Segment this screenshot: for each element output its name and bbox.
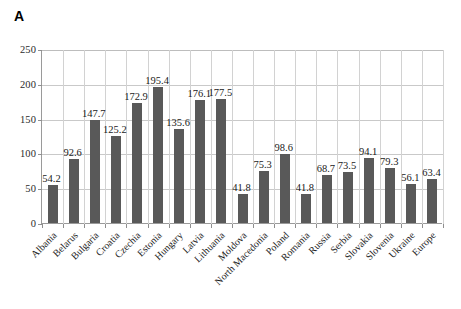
bar-value-label: 172.9 (119, 91, 153, 102)
gridline-horizontal (42, 50, 443, 51)
x-tick-mark (126, 224, 127, 228)
y-tick-mark (38, 189, 42, 190)
bar-value-label: 79.3 (372, 156, 406, 167)
gridline-horizontal (42, 120, 443, 121)
bar-value-label: 63.4 (414, 167, 448, 178)
bar (238, 194, 248, 223)
gridline-vertical (380, 50, 381, 224)
bar (364, 158, 374, 223)
bar (174, 129, 184, 223)
bar-value-label: 41.8 (225, 182, 259, 193)
figure-panel-a: A 050100150200250 54.292.6147.7125.2172.… (0, 0, 461, 309)
bar (153, 87, 163, 223)
bar-value-label: 135.6 (161, 117, 195, 128)
x-tick-mark (359, 224, 360, 228)
bar (427, 179, 437, 223)
y-tick-label: 100 (8, 148, 36, 159)
x-tick-mark (443, 224, 444, 228)
x-tick-mark (42, 224, 43, 228)
gridline-vertical (190, 50, 191, 224)
bar-value-label: 195.4 (140, 75, 174, 86)
x-tick-mark (169, 224, 170, 228)
bar (195, 100, 205, 223)
x-tick-mark (274, 224, 275, 228)
x-tick-mark (63, 224, 64, 228)
gridline-vertical (422, 50, 423, 224)
gridline-vertical (443, 50, 444, 224)
x-tick-mark (253, 224, 254, 228)
y-tick-label: 250 (8, 44, 36, 55)
gridline-vertical (295, 50, 296, 224)
x-tick-mark (401, 224, 402, 228)
y-tick-label: 200 (8, 79, 36, 90)
x-tick-mark (211, 224, 212, 228)
y-tick-mark (38, 154, 42, 155)
y-tick-label: 50 (8, 183, 36, 194)
x-tick-mark (105, 224, 106, 228)
x-tick-mark (232, 224, 233, 228)
gridline-vertical (253, 50, 254, 224)
y-tick-mark (38, 85, 42, 86)
x-tick-mark (380, 224, 381, 228)
gridline-vertical (359, 50, 360, 224)
y-tick-mark (38, 120, 42, 121)
gridline-vertical (316, 50, 317, 224)
bar-value-label: 54.2 (35, 173, 69, 184)
panel-letter-label: A (14, 8, 24, 24)
bar-value-label: 75.3 (246, 159, 280, 170)
gridline-vertical (105, 50, 106, 224)
gridline-vertical (337, 50, 338, 224)
bar-value-label: 125.2 (98, 124, 132, 135)
gridline-vertical (84, 50, 85, 224)
y-tick-label: 0 (8, 218, 36, 229)
x-tick-mark (422, 224, 423, 228)
y-tick-label: 150 (8, 114, 36, 125)
x-tick-mark (148, 224, 149, 228)
bar (322, 175, 332, 223)
x-tick-mark (316, 224, 317, 228)
bar (69, 159, 79, 223)
gridline-vertical (63, 50, 64, 224)
bar (406, 184, 416, 223)
x-tick-mark (190, 224, 191, 228)
bar (343, 172, 353, 223)
bar (111, 136, 121, 223)
bar-value-label: 98.6 (267, 142, 301, 153)
gridline-vertical (401, 50, 402, 224)
bar-value-label: 92.6 (56, 147, 90, 158)
gridline-vertical (232, 50, 233, 224)
bar (301, 194, 311, 223)
gridline-vertical (126, 50, 127, 224)
x-tick-mark (84, 224, 85, 228)
gridline-vertical (274, 50, 275, 224)
bar-value-label: 147.7 (77, 108, 111, 119)
x-tick-mark (337, 224, 338, 228)
x-tick-mark (295, 224, 296, 228)
bar (132, 103, 142, 223)
bar-value-label: 177.5 (203, 87, 237, 98)
bar (90, 120, 100, 223)
y-tick-mark (38, 50, 42, 51)
gridline-horizontal (42, 85, 443, 86)
bar-value-label: 41.8 (288, 182, 322, 193)
bar (259, 171, 269, 223)
gridline-vertical (211, 50, 212, 224)
bar (216, 99, 226, 223)
bar (48, 185, 58, 223)
plot-area (41, 50, 442, 224)
bar-value-label: 73.5 (330, 160, 364, 171)
